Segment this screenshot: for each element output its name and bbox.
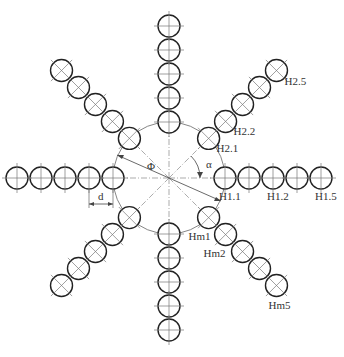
hole-label: Hm2 <box>204 247 226 259</box>
hole-label: Hm1 <box>189 230 211 242</box>
phi-dimension-line <box>169 178 221 201</box>
arrow-head <box>117 155 124 159</box>
hole-label: H2.2 <box>234 125 256 137</box>
hole-label: H1.2 <box>267 190 289 202</box>
radial-hole-diagram: H1.1H1.2H1.5H2.1H2.2H2.5Hm1Hm2Hm5Φαd <box>0 0 344 357</box>
hole-label: H2.1 <box>217 142 239 154</box>
arrow-head <box>197 172 203 178</box>
arrow-head <box>108 202 113 206</box>
hole-label: H1.5 <box>315 190 337 202</box>
phi-dimension-line <box>117 155 169 178</box>
hole-label: Hm5 <box>268 299 291 311</box>
hole-label: H1.1 <box>219 190 241 202</box>
alpha-label: α <box>206 158 212 170</box>
phi-label: Φ <box>147 160 155 172</box>
hole-label: H2.5 <box>284 75 306 87</box>
d-label: d <box>98 190 104 202</box>
arrow-head <box>89 202 94 206</box>
